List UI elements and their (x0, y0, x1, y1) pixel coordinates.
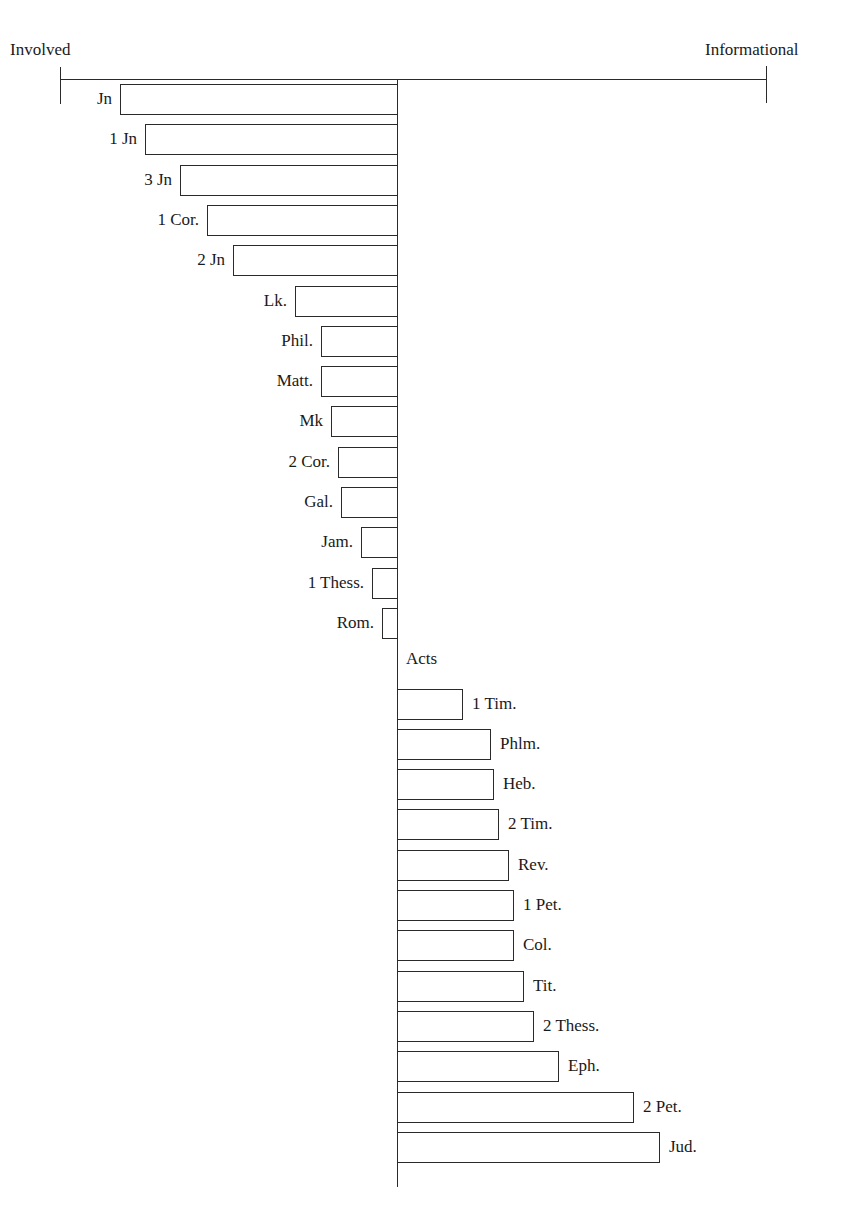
bar-label: Matt. (277, 371, 313, 391)
bar-label: 3 Jn (144, 170, 172, 190)
bar (372, 568, 398, 599)
bar (397, 890, 514, 921)
bar (321, 366, 398, 397)
bar-label: Col. (523, 935, 552, 955)
bar-label: Gal. (304, 492, 333, 512)
bar (397, 689, 463, 720)
bar (361, 527, 398, 558)
bar (341, 487, 398, 518)
bar-label: Rom. (337, 613, 374, 633)
involved-informational-bar-chart: Involved Informational Jn1 Jn3 Jn1 Cor.2… (0, 0, 865, 1223)
bar (397, 769, 494, 800)
bar (397, 1011, 534, 1042)
bar (397, 850, 509, 881)
bar (338, 447, 398, 478)
bar-label: Jud. (669, 1137, 697, 1157)
bar (321, 326, 398, 357)
bar (397, 1092, 634, 1123)
horizontal-axis-line (60, 79, 767, 80)
right-pole-label: Informational (705, 40, 798, 60)
bar-label: Lk. (264, 291, 287, 311)
bar (233, 245, 398, 276)
bar-label: Acts (406, 649, 437, 669)
bar-label: Rev. (518, 855, 549, 875)
bar-label: Phil. (281, 331, 313, 351)
bar (397, 971, 524, 1002)
bar-label: 2 Cor. (288, 452, 330, 472)
bar-label: 2 Thess. (543, 1016, 599, 1036)
bar-label: 1 Pet. (523, 895, 562, 915)
bar (397, 1132, 660, 1163)
bar-label: 1 Tim. (472, 694, 516, 714)
bar (397, 1051, 559, 1082)
bar-label: Jn (97, 89, 112, 109)
bar-label: 1 Jn (109, 129, 137, 149)
bar-label: 1 Thess. (308, 573, 364, 593)
bar (331, 406, 398, 437)
bar-label: 2 Jn (197, 250, 225, 270)
bar (295, 286, 398, 317)
bar-label: Phlm. (500, 734, 540, 754)
bar (397, 930, 514, 961)
bar (397, 729, 491, 760)
bar (120, 84, 398, 115)
right-axis-tick (766, 66, 767, 103)
bar-label: Heb. (503, 774, 536, 794)
bar-label: Eph. (568, 1056, 600, 1076)
bar-label: Tit. (533, 976, 556, 996)
bar (382, 608, 398, 639)
bar-label: 1 Cor. (157, 210, 199, 230)
bar-label: Jam. (321, 532, 353, 552)
bar-label: 2 Tim. (508, 814, 552, 834)
bar-label: 2 Pet. (643, 1097, 682, 1117)
bar (145, 124, 398, 155)
left-pole-label: Involved (10, 40, 70, 60)
bar (180, 165, 398, 196)
bar (397, 809, 499, 840)
left-axis-tick (60, 67, 61, 104)
bar (207, 205, 398, 236)
bar-label: Mk (299, 411, 323, 431)
